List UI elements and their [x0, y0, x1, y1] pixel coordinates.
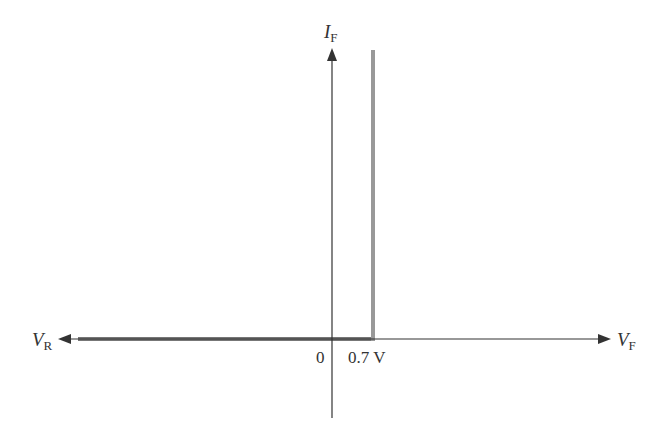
arrow-right-icon — [598, 334, 611, 344]
y-axis-label: IF — [324, 22, 338, 44]
arrow-left-icon — [58, 334, 71, 344]
x-axis-positive-label: VF — [617, 330, 636, 352]
vr-label-sub: R — [44, 338, 53, 353]
if-label-sub: F — [330, 30, 337, 45]
threshold-label: 0.7 V — [348, 349, 385, 366]
vf-label-sub: F — [629, 338, 636, 353]
arrow-up-icon — [327, 48, 337, 61]
vr-label-main: V — [32, 329, 44, 350]
x-axis-negative-label: VR — [32, 330, 52, 352]
vf-label-main: V — [617, 329, 629, 350]
diode-characteristic-diagram — [0, 0, 652, 442]
origin-label: 0 — [316, 349, 325, 366]
